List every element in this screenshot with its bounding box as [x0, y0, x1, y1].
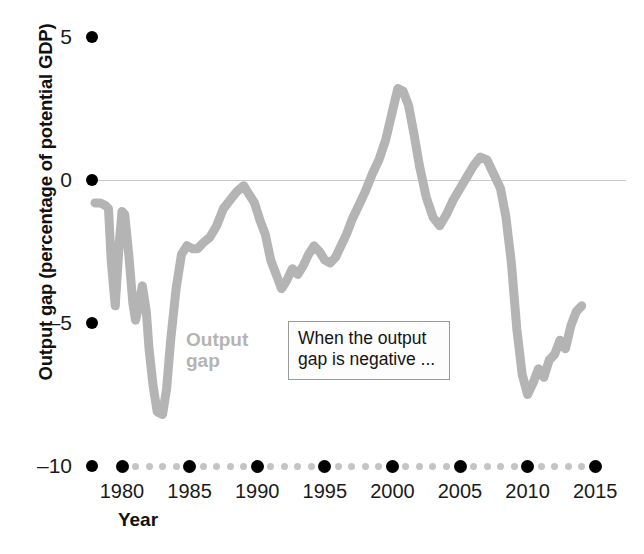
- output-gap-line-series: [0, 0, 644, 554]
- x-tick-label: 2005: [430, 481, 490, 501]
- negative-gap-callout: When the output gap is negative ...: [288, 321, 450, 380]
- x-tick-label: 1995: [295, 481, 355, 501]
- x-axis-title: Year: [98, 509, 178, 531]
- x-tick-label: 1985: [160, 481, 220, 501]
- series-inline-label: Output gap: [186, 330, 248, 371]
- x-tick-label: 1980: [92, 481, 152, 501]
- x-tick-label: 1990: [227, 481, 287, 501]
- x-tick-label: 2010: [498, 481, 558, 501]
- x-tick-label: 2000: [362, 481, 422, 501]
- plot-area: [0, 0, 644, 554]
- x-tick-label: 2015: [565, 481, 625, 501]
- output-gap-chart-figure: Output gap (percentage of potential GDP)…: [0, 0, 644, 554]
